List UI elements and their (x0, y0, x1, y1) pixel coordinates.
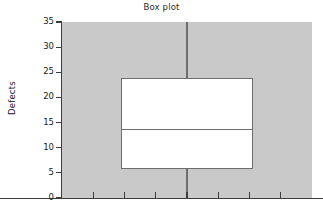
x-axis-tick (124, 192, 125, 199)
plot-area (62, 22, 312, 198)
x-axis-tick (155, 192, 156, 199)
x-axis-tick (249, 192, 250, 199)
y-axis-tick (56, 122, 62, 123)
y-axis-tick (56, 197, 62, 198)
y-axis-tick (56, 72, 62, 73)
y-axis-tick (56, 172, 62, 173)
x-axis-tick (93, 192, 94, 199)
x-axis-tick (186, 192, 187, 199)
box-rectangle (121, 78, 253, 169)
y-axis-tick (56, 47, 62, 48)
median-line (121, 129, 253, 131)
y-axis-tick-label: 10 (6, 142, 54, 152)
y-axis-tick (56, 21, 62, 22)
y-axis-tick-label: 0 (6, 192, 54, 202)
x-axis-tick (280, 192, 281, 199)
y-axis-tick-label: 5 (6, 167, 54, 177)
x-axis-tick (218, 192, 219, 199)
y-axis-tick-label: 35 (6, 16, 54, 26)
y-axis-tick-label: 30 (6, 41, 54, 51)
y-axis-title: Defects (7, 68, 17, 128)
box-plot-figure: Box plot 35302520151050 Defects (0, 0, 323, 217)
y-axis-tick (56, 97, 62, 98)
y-axis-tick (56, 147, 62, 148)
